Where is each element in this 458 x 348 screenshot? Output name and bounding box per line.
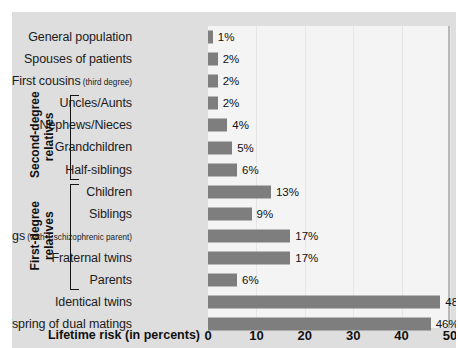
bar-container: 4% [208, 114, 450, 136]
x-tick-label: 50 [443, 328, 456, 343]
bar [208, 141, 232, 154]
bar-container: 2% [208, 70, 450, 92]
bar-container: 13% [208, 181, 450, 203]
bar-container: 2% [208, 92, 450, 114]
x-axis: 01020304050 [208, 328, 450, 348]
bar-value-label: 17% [295, 230, 318, 242]
bar [208, 53, 218, 66]
bar [208, 207, 252, 220]
bar-category-label: Siblings [89, 203, 132, 225]
bar-container: 6% [208, 159, 450, 181]
bar-row: Spouses of patients2% [12, 48, 456, 70]
bar-category-note: (third degree) [81, 78, 132, 87]
bar [208, 229, 290, 242]
group-label: First-degreerelatives [28, 184, 56, 289]
bar-container: 1% [208, 26, 450, 48]
bar-row: First cousins (third degree)2% [12, 70, 456, 92]
group-label: Second-degreerelatives [28, 95, 56, 177]
group-bracket [70, 184, 79, 291]
bar-category-label: Parents [90, 269, 132, 291]
chart-panel: General population1%Spouses of patients2… [12, 12, 456, 348]
bar [208, 119, 227, 132]
bar-value-label: 6% [242, 164, 259, 176]
bar-value-label: 5% [237, 142, 254, 154]
bar [208, 296, 440, 309]
bar-value-label: 17% [295, 252, 318, 264]
bar [208, 185, 271, 198]
bar-value-label: 4% [232, 119, 249, 131]
bar-container: 17% [208, 247, 450, 269]
group-label-line1: First-degree [28, 184, 42, 289]
bar-value-label: 2% [223, 75, 240, 87]
x-tick-label: 20 [298, 328, 312, 343]
x-tick-label: 40 [394, 328, 408, 343]
bar [208, 31, 213, 44]
bar-category-label: Grandchildren [55, 136, 132, 158]
bar-row: Identical twins48% [12, 291, 456, 313]
x-tick-label: 30 [346, 328, 360, 343]
bar-category-label: Children [86, 181, 132, 203]
group-label-line2: relatives [42, 95, 56, 177]
bar-category-label: Identical twins [55, 291, 132, 313]
bar [208, 97, 218, 110]
group-label-line1: Second-degree [28, 95, 42, 177]
bar-value-label: 2% [223, 53, 240, 65]
group-label-line2: relatives [42, 184, 56, 289]
bar-value-label: 9% [257, 208, 274, 220]
bar-container: 9% [208, 203, 450, 225]
bar-value-label: 6% [242, 274, 259, 286]
group-bracket [70, 95, 79, 179]
bar-container: 5% [208, 136, 450, 158]
x-tick-label: 10 [249, 328, 263, 343]
bar-container: 6% [208, 269, 450, 291]
bar-container: 48% [208, 291, 450, 313]
bar-value-label: 1% [218, 31, 235, 43]
bar-value-label: 48% [445, 296, 456, 308]
bar-container: 17% [208, 225, 450, 247]
bar-value-label: 2% [223, 97, 240, 109]
x-tick-label: 0 [204, 328, 211, 343]
bar [208, 274, 237, 287]
bar-value-label: 13% [276, 186, 299, 198]
bar-container: 2% [208, 48, 450, 70]
x-axis-title: Lifetime risk (in percents) [12, 328, 200, 342]
bar-row: General population1% [12, 26, 456, 48]
bar-category-label: Fraternal twins [52, 247, 132, 269]
chart-figure: General population1%Spouses of patients2… [0, 0, 458, 348]
bar [208, 163, 237, 176]
bar-category-label: First cousins (third degree) [12, 70, 132, 92]
bar-category-label: Spouses of patients [24, 48, 132, 70]
bar [208, 75, 218, 88]
bar-category-label: General population [28, 26, 132, 48]
bar [208, 251, 290, 264]
